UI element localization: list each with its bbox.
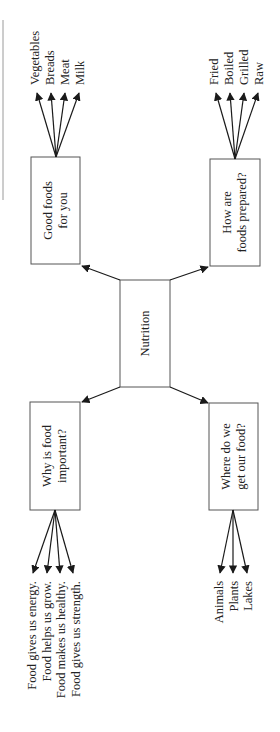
leaf-breads: Breads bbox=[43, 50, 57, 85]
how-prepared-label-line-1: How are bbox=[220, 191, 234, 234]
leaf-energy: Food gives us energy. bbox=[25, 581, 39, 690]
leaf-milk: Milk bbox=[73, 60, 87, 85]
center-node-nutrition: Nutrition bbox=[120, 280, 170, 387]
nutrition-concept-map: Nutrition Good foods for you Vegetables … bbox=[0, 0, 280, 732]
arrow-to-raw bbox=[235, 93, 258, 159]
good-foods-label-line-2: for you bbox=[56, 192, 70, 229]
branch-why-important: Why is food important? Food gives us ene… bbox=[25, 402, 83, 698]
leaf-meat: Meat bbox=[58, 59, 72, 85]
branch-good-foods: Good foods for you Vegetables Breads Mea… bbox=[28, 31, 87, 264]
leaf-grow: Food helps us grow. bbox=[40, 581, 54, 682]
arrow-to-animals bbox=[220, 510, 233, 573]
leaf-boiled: Boiled bbox=[222, 51, 236, 85]
leaf-vegetables: Vegetables bbox=[28, 31, 42, 85]
leaf-animals: Animals bbox=[212, 581, 226, 623]
arrow-to-grow bbox=[47, 510, 55, 573]
center-label: Nutrition bbox=[138, 310, 152, 357]
arrow-to-grilled bbox=[235, 93, 244, 159]
arrow-to-meat bbox=[56, 93, 65, 157]
branch-how-prepared: How are foods prepared? Fried Boiled Gri… bbox=[207, 49, 266, 266]
branch-where-from: Where do we get our food? Animals Plants… bbox=[209, 403, 258, 623]
leaf-lakes: Lakes bbox=[241, 581, 255, 611]
arrow-to-good-foods bbox=[82, 266, 120, 280]
leaf-grilled: Grilled bbox=[237, 49, 251, 85]
arrow-to-why-important bbox=[82, 387, 120, 402]
arrow-to-energy bbox=[33, 510, 55, 573]
where-from-label-line-1: Where do we bbox=[219, 423, 233, 490]
arrow-to-milk bbox=[56, 93, 79, 157]
leaf-healthy: Food makes us healthy. bbox=[54, 581, 68, 698]
arrow-to-where-from bbox=[170, 387, 208, 403]
where-from-label-line-2: get our food? bbox=[234, 423, 248, 490]
leaf-fried: Fried bbox=[207, 58, 221, 85]
leaf-raw: Raw bbox=[252, 62, 266, 85]
why-important-label-line-1: Why is food bbox=[40, 424, 54, 487]
arrow-to-how-prepared bbox=[170, 267, 208, 280]
leaf-strength: Food gives us strength. bbox=[69, 581, 83, 697]
leaf-plants: Plants bbox=[227, 581, 241, 612]
why-important-label-line-2: important? bbox=[55, 428, 69, 483]
how-prepared-label-line-2: foods prepared? bbox=[235, 172, 249, 253]
arrow-to-lakes bbox=[233, 510, 247, 573]
good-foods-label-line-1: Good foods bbox=[41, 181, 55, 240]
